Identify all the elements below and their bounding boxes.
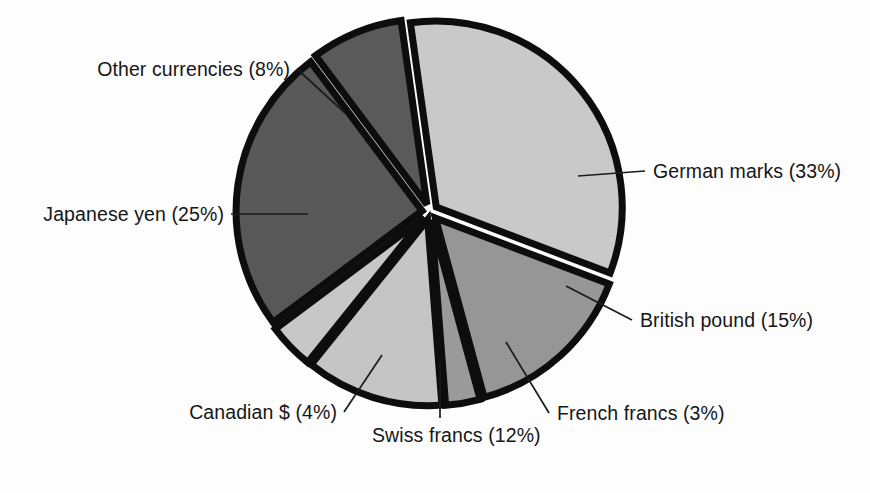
pie-label-japanese-yen: Japanese yen (25%) xyxy=(43,203,224,225)
pie-chart-figure: Other currencies (8%) German marks (33%)… xyxy=(0,0,870,493)
pie-label-canadian-dollar: Canadian $ (4%) xyxy=(189,401,337,423)
pie-label-german-marks: German marks (33%) xyxy=(653,160,841,182)
pie-label-french-francs: French francs (3%) xyxy=(557,402,725,424)
pie-chart-canvas: Other currencies (8%) German marks (33%)… xyxy=(0,0,870,493)
pie-label-british-pound: British pound (15%) xyxy=(640,309,813,331)
pie-label-other-currencies: Other currencies (8%) xyxy=(97,58,290,80)
pie-slices-group xyxy=(236,20,622,405)
pie-label-swiss-francs: Swiss francs (12%) xyxy=(372,424,541,446)
